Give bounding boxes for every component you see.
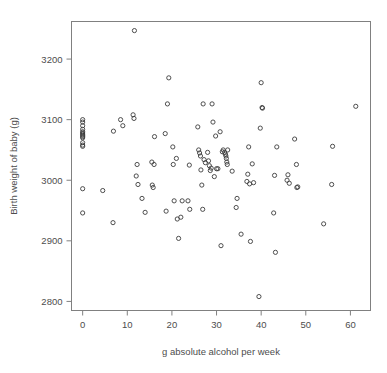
data-point: [250, 162, 254, 166]
y-tick-label-3100: 3100: [41, 114, 62, 125]
data-point: [140, 196, 144, 200]
data-point: [214, 134, 218, 138]
data-point: [354, 104, 358, 108]
data-point: [174, 156, 178, 160]
data-point: [121, 124, 125, 128]
data-point: [219, 244, 223, 248]
data-point: [246, 172, 250, 176]
data-point: [218, 130, 222, 134]
data-point: [177, 236, 181, 240]
x-tick-label-10: 10: [122, 319, 133, 330]
plot-frame: [72, 22, 371, 311]
data-point: [247, 145, 251, 149]
data-point: [152, 135, 156, 139]
data-point: [259, 81, 263, 85]
data-point: [187, 163, 191, 167]
data-point: [287, 181, 291, 185]
data-point: [251, 181, 255, 185]
data-point: [273, 250, 277, 254]
data-point: [247, 182, 251, 186]
data-point: [275, 145, 279, 149]
data-point: [201, 207, 205, 211]
data-point: [245, 179, 249, 183]
data-point: [239, 232, 243, 236]
data-point: [143, 210, 147, 214]
x-axis-tick-labels: 0102030405060: [80, 319, 356, 330]
data-point: [226, 148, 230, 152]
data-point: [230, 169, 234, 173]
y-tick-label-3200: 3200: [41, 54, 62, 65]
data-point: [330, 182, 334, 186]
y-axis-title: Birth weight of baby (g): [8, 117, 19, 215]
data-point: [180, 199, 184, 203]
y-tick-label-3000: 3000: [41, 175, 62, 186]
x-tick-label-0: 0: [80, 319, 85, 330]
data-point: [210, 102, 214, 106]
data-point: [101, 188, 105, 192]
y-tick-label-2900: 2900: [41, 235, 62, 246]
data-point: [211, 120, 215, 124]
data-point: [135, 162, 139, 166]
data-point: [188, 207, 192, 211]
data-point: [136, 182, 140, 186]
data-point: [235, 196, 239, 200]
x-tick-label-30: 30: [211, 319, 222, 330]
data-point: [258, 126, 262, 130]
data-point: [111, 129, 115, 133]
data-point: [201, 102, 205, 106]
data-point: [257, 294, 261, 298]
data-point: [167, 76, 171, 80]
data-point: [186, 199, 190, 203]
x-tick-label-60: 60: [345, 319, 356, 330]
scatter-plot-figure: 0102030405060 28002900300031003200 g abs…: [0, 0, 387, 373]
y-tick-label-2800: 2800: [41, 296, 62, 307]
data-point: [179, 215, 183, 219]
data-point: [164, 209, 168, 213]
data-point: [81, 211, 85, 215]
data-point: [206, 150, 210, 154]
data-point: [234, 205, 238, 209]
data-point: [132, 28, 136, 32]
data-point: [134, 174, 138, 178]
data-point: [163, 131, 167, 135]
data-point: [199, 168, 203, 172]
x-axis-title: g absolute alcohol per week: [162, 346, 280, 357]
data-point: [272, 211, 276, 215]
data-point: [286, 173, 290, 177]
data-point: [248, 239, 252, 243]
data-point: [118, 118, 122, 122]
data-point: [294, 162, 298, 166]
data-point: [171, 145, 175, 149]
data-point: [212, 175, 216, 179]
data-point: [330, 144, 334, 148]
x-tick-label-40: 40: [256, 319, 267, 330]
x-tick-label-50: 50: [301, 319, 312, 330]
data-point-group: [81, 28, 358, 298]
data-point: [172, 199, 176, 203]
plot-canvas: 0102030405060 28002900300031003200 g abs…: [0, 0, 387, 373]
data-point: [81, 187, 85, 191]
data-point: [322, 222, 326, 226]
data-point: [196, 125, 200, 129]
y-axis-tick-labels: 28002900300031003200: [41, 54, 62, 307]
data-point: [171, 162, 175, 166]
y-axis-ticks: [67, 59, 72, 301]
data-point: [272, 173, 276, 177]
data-point: [293, 137, 297, 141]
data-point: [111, 221, 115, 225]
x-tick-label-20: 20: [167, 319, 178, 330]
data-point: [165, 102, 169, 106]
data-point: [200, 183, 204, 187]
x-axis-ticks: [83, 311, 351, 316]
